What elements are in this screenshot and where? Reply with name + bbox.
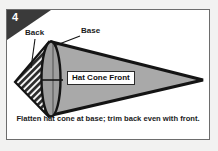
figure-panel: Back Base Hat Cone Front Flatten hat con… [6, 9, 210, 140]
label-hat-cone-front: Hat Cone Front [67, 71, 135, 85]
label-back: Back [25, 28, 44, 37]
figure-caption: Flatten hat cone at base; trim back even… [7, 114, 209, 124]
label-base: Base [81, 26, 100, 35]
figure-root: Back Base Hat Cone Front Flatten hat con… [0, 0, 218, 151]
